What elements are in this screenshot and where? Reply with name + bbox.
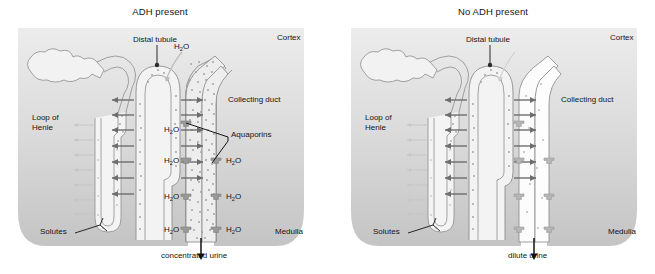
label-aquaporins: Aquaporins xyxy=(231,131,271,139)
label-dilute-urine: dilute urine xyxy=(508,252,547,260)
label-medulla: Medulla xyxy=(275,228,303,236)
label-h2o-left-3: H2O xyxy=(164,193,179,202)
label-solutes: Solutes xyxy=(373,228,400,236)
label-solutes: Solutes xyxy=(40,228,67,236)
label-loop-of-henle-line1: Loop of xyxy=(32,113,59,123)
label-concentrated-urine: concentrated urine xyxy=(161,252,227,260)
label-collecting-duct: Collecting duct xyxy=(228,96,280,104)
label-cortex: Cortex xyxy=(277,34,301,42)
label-h2o-left-2: H2O xyxy=(164,157,179,166)
label-collecting-duct: Collecting duct xyxy=(561,96,613,104)
label-distal-tubule: Distal tubule xyxy=(133,36,177,44)
label-loop-of-henle-line2: Henle xyxy=(32,123,59,133)
label-h2o-top: H2O xyxy=(174,43,189,52)
label-cortex: Cortex xyxy=(610,34,634,42)
nephron-adh-figure: ADH present xyxy=(0,0,655,274)
panel-adh-present: ADH present xyxy=(0,0,320,274)
label-h2o-right-1: H2O xyxy=(226,157,241,166)
label-medulla: Medulla xyxy=(608,228,636,236)
label-h2o-right-3: H2O xyxy=(226,226,241,235)
label-loop-of-henle: Loop of Henle xyxy=(32,113,59,132)
label-h2o-right-2: H2O xyxy=(226,193,241,202)
panel-no-adh-present: No ADH present xyxy=(333,0,653,274)
label-h2o-left-1: H2O xyxy=(164,126,179,135)
label-h2o-left-4: H2O xyxy=(164,226,179,235)
label-loop-of-henle-line1: Loop of xyxy=(365,113,392,123)
label-loop-of-henle-line2: Henle xyxy=(365,123,392,133)
label-loop-of-henle: Loop of Henle xyxy=(365,113,392,132)
label-distal-tubule: Distal tubule xyxy=(466,36,510,44)
